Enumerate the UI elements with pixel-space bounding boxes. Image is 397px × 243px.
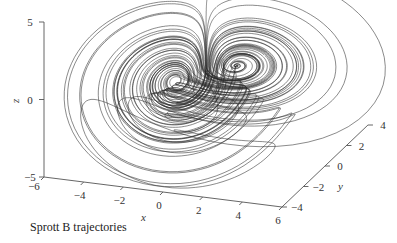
x-axis-tick-label: 6 [275,214,281,226]
x-axis-tick [200,197,203,200]
y-axis-label: y [337,180,343,192]
y-axis-tick-label: −4 [291,201,303,213]
x-axis-tick-label: 2 [196,204,202,216]
x-axis-tick [160,192,163,195]
z-axis-tick-label: 0 [27,94,33,106]
x-axis-tick-label: −2 [113,194,125,206]
y-axis-tick-label: −2 [313,181,325,193]
figure-caption: Sprott B trajectories [30,220,127,235]
z-axis-label: z [9,98,21,104]
x-axis-tick-label: 0 [156,199,162,211]
x-axis-tick-label: −4 [74,189,86,201]
x-axis-tick [279,207,282,210]
x-axis-tick-label: 4 [236,209,242,221]
y-axis-tick-label: 4 [380,119,386,131]
y-axis-tick-label: 2 [359,140,365,152]
y-axis-tick-label: 0 [337,160,343,172]
chart-3d: −505−6−4−20246−4−2024 x y z [0,0,397,243]
z-axis-tick-label: 5 [27,16,33,28]
x-axis-tick [239,202,242,205]
x-axis-label: x [140,211,146,223]
x-axis-tick-label: −6 [28,180,40,192]
x-axis-tick [81,182,84,185]
x-axis-tick [120,187,123,190]
